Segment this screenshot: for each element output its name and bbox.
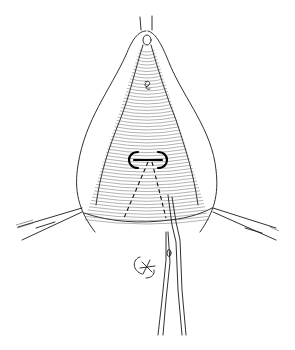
hatch-line	[132, 72, 162, 74]
hatch-line	[120, 111, 174, 114]
retraction-clamp-right	[213, 208, 279, 240]
hatch-line	[112, 136, 183, 139]
surgical-illustration	[0, 0, 295, 350]
hatch-line	[91, 200, 203, 204]
knot-symbol	[134, 257, 155, 278]
hatch-line	[126, 92, 168, 95]
hatch-line	[92, 197, 202, 201]
hatch-line	[113, 133, 182, 136]
hatch-line	[114, 130, 181, 133]
hatch-line	[117, 120, 178, 123]
tissue-outline	[77, 16, 217, 232]
hatch-line	[109, 143, 184, 146]
hatch-line	[88, 210, 206, 214]
hatch-line	[137, 56, 156, 58]
hatch-line	[108, 146, 185, 149]
hatch-line	[131, 76, 163, 78]
hatch-line	[129, 82, 165, 85]
hatch-line	[135, 63, 158, 65]
hatch-line	[89, 207, 205, 211]
hatch-line	[125, 95, 169, 98]
hatch-line	[118, 117, 177, 120]
hatch-line	[123, 101, 171, 104]
hatch-line	[105, 156, 188, 160]
hatch-line	[136, 60, 157, 62]
hatch-line	[116, 124, 179, 127]
hatch-line	[133, 69, 161, 71]
hatch-line	[107, 149, 186, 152]
hatch-line	[115, 127, 180, 130]
retraction-clamp-left	[16, 208, 82, 240]
suture-mark	[145, 81, 150, 89]
hatch-line	[106, 152, 187, 155]
hatch-line	[134, 66, 160, 68]
hatch-line	[124, 98, 170, 101]
hatch-line	[119, 114, 175, 117]
hatch-line	[111, 140, 184, 143]
hatch-line	[122, 104, 172, 107]
incision-guide-dashed	[124, 162, 166, 218]
hatch-line	[121, 108, 173, 111]
hatch-line	[90, 204, 204, 208]
tissue-hatching	[85, 50, 210, 224]
